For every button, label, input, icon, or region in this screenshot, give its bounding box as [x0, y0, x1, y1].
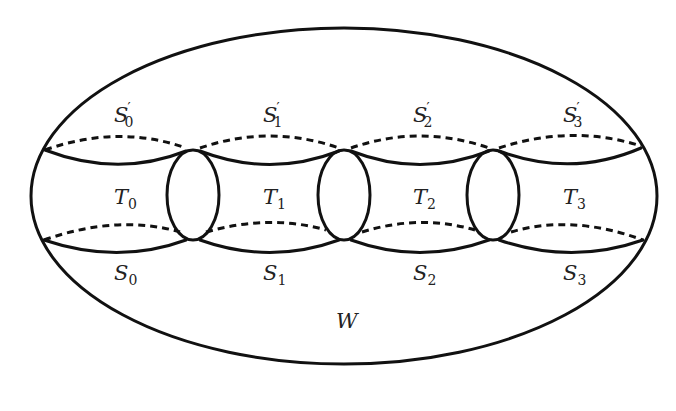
surface-decomposition-diagram: S′0 S′1 S′2 S′3 T0 T1 T2 T3 S0 S1 S2 S3 … — [0, 0, 676, 411]
label-s-2: S2 — [413, 261, 436, 288]
s-2-back — [362, 222, 475, 232]
label-s-3: S3 — [563, 261, 586, 288]
s-prime-1-back — [200, 136, 339, 148]
label-s-0: S0 — [114, 261, 137, 288]
label-t-0: T0 — [114, 185, 137, 212]
s-prime-1-front — [200, 151, 339, 165]
s-3-back — [511, 225, 643, 240]
label-s-prime-0: S′0 — [114, 100, 134, 130]
s-1-front — [200, 240, 339, 253]
junction-ellipse-1 — [167, 150, 219, 240]
s-prime-3-back — [499, 135, 641, 148]
s-0-back — [44, 225, 180, 240]
label-t-3: T3 — [563, 185, 586, 212]
label-s-prime-1: S′1 — [263, 100, 283, 130]
s-prime-3-front — [499, 148, 641, 164]
label-s-1: S1 — [263, 261, 286, 288]
s-3-front — [499, 240, 643, 253]
junction-ellipse-3 — [467, 150, 519, 240]
s-1-back — [206, 222, 326, 232]
label-t-2: T2 — [413, 185, 436, 212]
junction-ellipse-2 — [318, 150, 370, 240]
label-t-1: T1 — [263, 185, 286, 212]
label-s-prime-2: S′2 — [413, 100, 433, 130]
label-s-prime-3: S′3 — [563, 100, 583, 130]
s-prime-0-front — [45, 150, 186, 164]
s-2-front — [351, 240, 489, 253]
s-prime-2-front — [351, 151, 489, 165]
s-prime-0-back — [45, 136, 186, 150]
s-0-front — [44, 240, 186, 253]
label-w: W — [336, 309, 360, 333]
lower-boundary-band — [44, 222, 643, 252]
s-prime-2-back — [351, 136, 489, 148]
